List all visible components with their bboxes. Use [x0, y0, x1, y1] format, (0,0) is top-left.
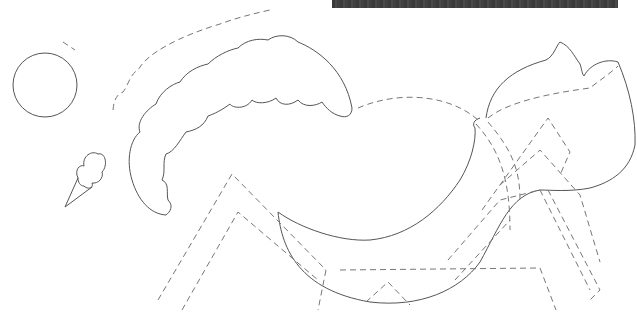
- circle-guide-dash: [63, 42, 75, 50]
- cloud-shape: [129, 36, 352, 215]
- cloud-guide-arc: [113, 10, 270, 110]
- body-bottom-shape: [278, 190, 540, 303]
- head-outline-shape: [486, 42, 635, 191]
- ice-cream-cone-shape: [65, 153, 105, 207]
- body-outline-shape: [278, 118, 480, 240]
- circle-shape: [13, 53, 77, 117]
- guide-lines: [158, 66, 618, 310]
- line-art-canvas: [0, 0, 637, 320]
